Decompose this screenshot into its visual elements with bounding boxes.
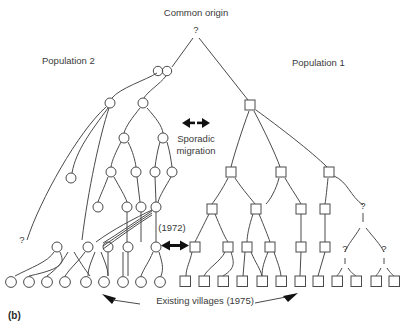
node-square-leaf [276,276,287,287]
node-circle [136,202,146,212]
label-population-2: Population 2 [42,55,95,66]
node-circle [52,242,62,252]
node-circle-leaf [42,277,53,288]
unknown-marker-left-tip: ? [19,234,24,245]
node-square [242,242,252,252]
sporadic-migration-arrow [182,118,210,128]
node-circle-leaf [136,277,147,288]
node-circle [122,202,132,212]
node-square [223,242,233,252]
node-square-leaf [351,276,362,287]
node-circle [167,167,177,177]
node-square-leaf [371,276,382,287]
node-square [320,242,330,252]
figure-title: Common origin [164,7,228,18]
unknown-marker-right-mid: ? [360,200,365,211]
population-1-nodes [180,100,400,287]
node-circle [138,98,148,108]
label-migration-year: (1972) [158,222,185,233]
node-square [226,167,236,177]
node-square [320,204,330,214]
node-square [190,242,200,252]
node-circle [151,242,161,252]
node-square [296,242,306,252]
node-square [296,204,306,214]
node-circle [93,202,103,212]
unknown-marker-right-leaf-a: ? [342,243,347,254]
node-circle [83,242,93,252]
node-circle [119,133,129,143]
node-square-leaf [180,276,191,287]
node-square-leaf [257,276,268,287]
node-circle-leaf [6,277,17,288]
label-migration: migration [176,145,215,156]
node-square [276,167,286,177]
node-square [251,204,261,214]
node-square [207,204,217,214]
label-population-1: Population 1 [292,57,345,68]
node-circle [106,167,116,177]
root-unknown-marker: ? [193,24,198,35]
node-circle [131,167,141,177]
node-square [245,100,255,110]
fission-tree-diagram: Common origin ? Population 2 Population … [0,0,416,331]
node-circle [123,242,133,252]
edges-population-1 [186,38,394,276]
node-circle [66,173,76,183]
node-circle [162,66,171,75]
label-sporadic: Sporadic [177,133,215,144]
node-square-leaf [313,276,324,287]
node-circle [150,167,160,177]
migration-1972-arrow [161,241,189,251]
node-circle-leaf [81,277,92,288]
node-circle-leaf [99,277,110,288]
node-circle [105,98,115,108]
unknown-marker-right-leaf-b: ? [381,243,386,254]
edges-population-2 [15,38,193,276]
node-circle [153,66,162,75]
node-square [324,167,334,177]
node-square [265,242,275,252]
node-circle [151,202,161,212]
node-circle-leaf [24,277,35,288]
node-square-leaf [332,276,343,287]
population-2-nodes [6,66,177,287]
label-existing-villages: Existing villages (1975) [156,295,254,306]
node-circle-leaf [155,277,166,288]
node-circle [158,133,168,143]
node-square-leaf [389,276,400,287]
panel-label: (b) [8,310,21,321]
node-circle-leaf [118,277,129,288]
node-square-leaf [295,276,306,287]
node-square-leaf [199,276,210,287]
node-circle-leaf [60,277,71,288]
node-square-leaf [237,276,248,287]
node-circle [103,242,113,252]
node-square-leaf [218,276,229,287]
figure-panel-b: Common origin ? Population 2 Population … [0,0,416,331]
